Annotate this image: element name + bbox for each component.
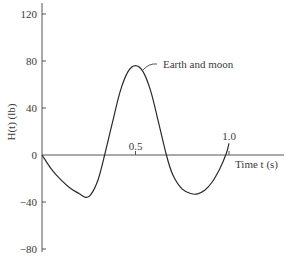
annotation-leader-line: [143, 64, 157, 70]
y-tick-label: −40: [20, 196, 38, 208]
curve-label: Earth and moon: [163, 58, 234, 70]
chart: 12080400−40−80 0.51.0 Earth and moon Tim…: [0, 0, 294, 265]
x-axis-label: Time t (s): [235, 158, 278, 171]
x-tick-label: 1.0: [222, 130, 236, 142]
earth-and-moon-curve: [42, 66, 229, 198]
y-tick-label: 40: [26, 102, 38, 114]
y-axis-label: H(t) (lb): [5, 103, 18, 140]
y-tick-label: −80: [20, 243, 38, 255]
x-ticks: 0.51.0: [129, 130, 237, 155]
y-tick-label: 80: [26, 55, 38, 67]
y-tick-label: 0: [32, 149, 38, 161]
x-tick-label: 0.5: [129, 140, 143, 152]
y-tick-label: 120: [21, 8, 38, 20]
